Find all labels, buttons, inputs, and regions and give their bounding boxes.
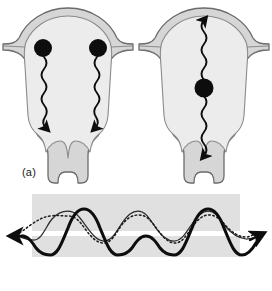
particle-left-a [34, 39, 52, 57]
uterus-diagram-b [136, 0, 272, 190]
particle-right-a [89, 39, 107, 57]
uterus-cavity-a [24, 16, 111, 158]
wave-superposition-chart [0, 190, 272, 291]
panel-c: (c) [0, 190, 272, 291]
white-stripe [32, 231, 240, 236]
panel-a-caption: (a) [22, 166, 36, 178]
panel-b: (b) [136, 0, 272, 190]
uterus-diagram-a [0, 0, 136, 190]
shaded-band [32, 194, 240, 257]
figure-root: (a) [0, 0, 272, 291]
panel-a: (a) [0, 0, 136, 190]
particle-center-b [195, 79, 214, 98]
